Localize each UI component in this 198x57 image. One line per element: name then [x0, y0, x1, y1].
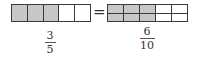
numerator: 6	[144, 26, 151, 37]
bar-cell-shaded	[124, 5, 140, 13]
bar-cell-shaded	[124, 14, 140, 22]
bar-cell-shaded	[140, 14, 156, 22]
bar-cell-empty	[172, 14, 187, 22]
bar-cell-shaded	[28, 5, 44, 21]
right-fraction-bar	[107, 4, 188, 22]
denominator: 5	[47, 44, 54, 55]
left-fraction-label: 3 5	[44, 30, 56, 55]
bar-cell-shaded	[108, 5, 124, 13]
bar-cell-empty	[156, 14, 172, 22]
bar-row-bottom	[108, 14, 187, 22]
bar-cell-empty	[156, 5, 172, 13]
bar-cell-shaded	[108, 14, 124, 22]
bar-cell-shaded	[12, 5, 28, 21]
bar-cell-shaded	[44, 5, 60, 21]
bar-row-top	[108, 5, 187, 14]
bar-cell-empty	[172, 5, 187, 13]
right-fraction-label: 6 10	[139, 26, 155, 51]
denominator: 10	[140, 40, 154, 51]
numerator: 3	[47, 30, 54, 41]
bar-cell-empty	[75, 5, 90, 21]
left-fraction-bar	[11, 4, 91, 22]
bar-cell-shaded	[140, 5, 156, 13]
equals-sign: =	[93, 5, 106, 20]
bar-cell-empty	[59, 5, 75, 21]
